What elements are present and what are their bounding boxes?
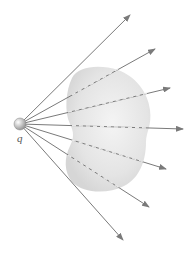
electric-flux-diagram: q [0, 0, 190, 254]
closed-surface [66, 67, 151, 192]
point-charge [14, 118, 26, 130]
charge-label: q [17, 132, 23, 144]
